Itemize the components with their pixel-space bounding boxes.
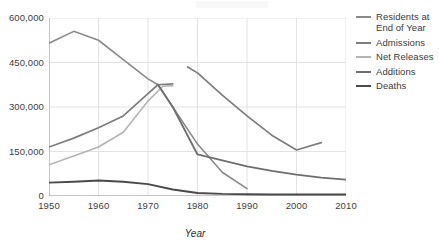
series-line xyxy=(49,86,173,165)
legend-item[interactable]: Additions xyxy=(356,66,439,77)
plot-svg xyxy=(49,18,346,196)
legend-swatch-icon xyxy=(356,56,371,58)
legend-item-label: Deaths xyxy=(376,80,406,91)
x-axis-tick-label: 1960 xyxy=(88,200,110,211)
legend-item[interactable]: Admissions xyxy=(356,37,439,48)
y-axis-tick-label: 450,000 xyxy=(9,57,44,68)
legend-item[interactable]: Net Releases xyxy=(356,51,439,62)
x-axis-tick-label: 2000 xyxy=(286,200,308,211)
plot-area xyxy=(49,18,346,196)
scan-artifact xyxy=(196,1,268,8)
line-chart: 0150,000300,000450,000600,000 1950196019… xyxy=(0,0,439,252)
x-axis-tick-label: 1990 xyxy=(236,200,258,211)
x-axis-tick-label: 1980 xyxy=(187,200,209,211)
legend-item-label: Additions xyxy=(376,66,416,77)
chart-legend: Residents at End of YearAdmissionsNet Re… xyxy=(356,11,439,94)
legend-item[interactable]: Residents at End of Year xyxy=(356,11,439,34)
x-axis-title: Year xyxy=(185,228,206,239)
series-line xyxy=(188,67,322,150)
series-line xyxy=(158,84,346,179)
x-axis-tick-label: 2010 xyxy=(335,200,357,211)
legend-item-label: Admissions xyxy=(376,37,425,48)
legend-swatch-icon xyxy=(356,42,371,44)
x-axis-tick-label: 1970 xyxy=(137,200,159,211)
x-axis-tick-label: 1950 xyxy=(38,200,60,211)
legend-item-label: Net Releases xyxy=(376,51,434,62)
legend-swatch-icon xyxy=(356,71,371,73)
legend-swatch-icon xyxy=(356,16,371,18)
y-axis-tick-label: 300,000 xyxy=(9,101,44,112)
legend-item[interactable]: Deaths xyxy=(356,80,439,91)
y-axis-tick-label: 150,000 xyxy=(9,146,44,157)
legend-swatch-icon xyxy=(356,85,371,87)
legend-item-label: Residents at End of Year xyxy=(376,11,439,34)
series-line xyxy=(49,84,173,147)
y-axis-tick-label: 600,000 xyxy=(9,12,44,23)
